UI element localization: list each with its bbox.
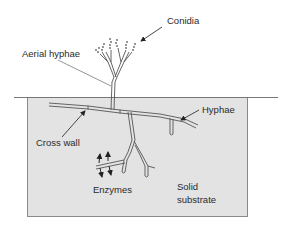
label-enzymes: Enzymes	[93, 184, 132, 195]
label-cross-wall: Cross wall	[36, 137, 80, 148]
fungal-growth-diagram	[0, 0, 289, 226]
conidia-arrow-icon	[141, 27, 162, 41]
aerial-hyphae-leader	[58, 60, 111, 86]
label-solid: Solid	[177, 181, 198, 192]
conidia-chains	[95, 38, 136, 53]
label-conidia: Conidia	[167, 15, 199, 26]
label-hyphae: Hyphae	[202, 104, 235, 115]
label-aerial-hyphae: Aerial hyphae	[22, 48, 80, 59]
label-substrate: substrate	[177, 194, 216, 205]
